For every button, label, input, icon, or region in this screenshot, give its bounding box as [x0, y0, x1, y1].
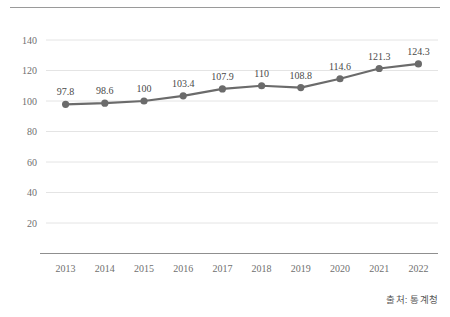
x-tick-label-2014: 2014 [95, 263, 115, 274]
data-point-marker[interactable] [376, 65, 383, 72]
data-point-marker[interactable] [140, 97, 147, 104]
data-labels-group: 97.898.6100103.4107.9110108.8114.6121.31… [57, 46, 430, 97]
data-point-marker[interactable] [180, 92, 187, 99]
x-tick-label-2017: 2017 [212, 263, 232, 274]
x-tick-label-2016: 2016 [173, 263, 193, 274]
data-label: 100 [137, 83, 152, 94]
y-tick-label: 100 [22, 96, 37, 107]
y-axis-tick-labels: 20406080100120140 [22, 35, 37, 229]
data-label: 121.3 [368, 51, 391, 62]
data-label: 108.8 [290, 70, 313, 81]
y-tick-label: 120 [22, 65, 37, 76]
y-tick-label: 20 [27, 218, 37, 229]
x-tick-label-2015: 2015 [134, 263, 154, 274]
chart-figure: 20406080100120140 2013201420152016201720… [0, 0, 450, 317]
data-label: 110 [254, 68, 269, 79]
data-point-marker[interactable] [258, 82, 265, 89]
y-tick-label: 60 [27, 157, 37, 168]
data-point-marker[interactable] [101, 100, 108, 107]
y-tick-label: 40 [27, 187, 37, 198]
x-tick-label-2020: 2020 [330, 263, 350, 274]
y-tick-label: 140 [22, 35, 37, 46]
data-point-marker[interactable] [415, 60, 422, 67]
line-chart: 20406080100120140 2013201420152016201720… [0, 0, 450, 317]
data-point-marker[interactable] [219, 85, 226, 92]
data-label: 124.3 [407, 46, 430, 57]
data-label: 114.6 [329, 61, 351, 72]
data-label: 98.6 [96, 85, 114, 96]
x-tick-label-2013: 2013 [56, 263, 76, 274]
data-point-marker[interactable] [62, 101, 69, 108]
x-tick-label-2018: 2018 [252, 263, 272, 274]
chart-canvas: 20406080100120140 2013201420152016201720… [0, 0, 450, 317]
x-tick-label-2021: 2021 [369, 263, 389, 274]
y-tick-label: 80 [27, 126, 37, 137]
data-point-marker[interactable] [336, 75, 343, 82]
x-tick-label-2022: 2022 [408, 263, 428, 274]
data-label: 107.9 [211, 71, 234, 82]
data-label: 103.4 [172, 78, 195, 89]
source-note: 출처: 통계청 [386, 292, 438, 306]
data-point-marker[interactable] [297, 84, 304, 91]
x-axis-tick-labels: 2013201420152016201720182019202020212022 [56, 263, 429, 274]
x-tick-label-2019: 2019 [291, 263, 311, 274]
data-label: 97.8 [57, 86, 75, 97]
